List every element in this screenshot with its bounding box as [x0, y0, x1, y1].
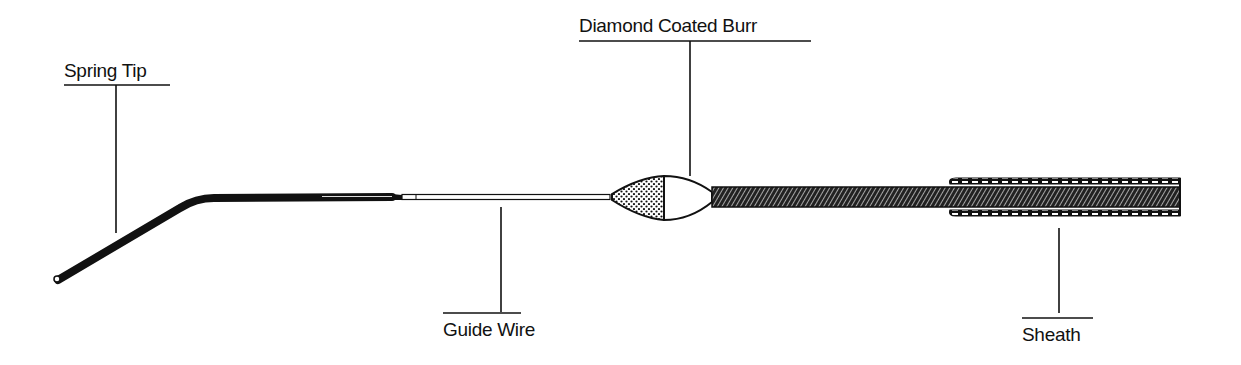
device-illustration [0, 0, 1241, 365]
guide-wire-shape [392, 194, 610, 200]
label-sheath: Sheath [1022, 324, 1080, 346]
label-spring-tip: Spring Tip [64, 60, 147, 82]
spring-tip-shape [54, 197, 392, 283]
leader-lines [64, 41, 1093, 318]
diamond-coated-burr-shape [612, 176, 712, 220]
drive-shaft-shape [712, 187, 1180, 207]
label-guide-wire: Guide Wire [443, 319, 535, 341]
label-diamond-coated-burr: Diamond Coated Burr [579, 15, 757, 37]
